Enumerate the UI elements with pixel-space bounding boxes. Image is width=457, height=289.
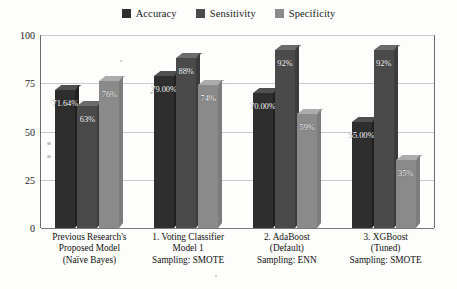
y-axis-tick-label: 25 bbox=[25, 174, 35, 185]
chart-legend: AccuracySensitivitySpecificity bbox=[0, 8, 457, 19]
category-label-line: (Tuned) bbox=[336, 243, 435, 254]
legend-entry: Accuracy bbox=[122, 8, 177, 19]
gridline: 0 bbox=[41, 228, 434, 229]
category-label-line: Proposed Model bbox=[40, 243, 139, 254]
bar: 71.64% bbox=[55, 90, 75, 228]
bar: 59% bbox=[297, 114, 317, 228]
legend-label: Sensitivity bbox=[210, 8, 256, 19]
legend-swatch-icon bbox=[122, 9, 131, 18]
bar-front-face bbox=[352, 122, 372, 228]
bar-front-face bbox=[253, 93, 273, 228]
scan-artifact bbox=[47, 142, 51, 145]
category-label-line: 3. XGBoost bbox=[336, 232, 435, 243]
bar: 35% bbox=[396, 160, 416, 228]
category-label: 1. Voting ClassifierModel 1Sampling: SMO… bbox=[139, 232, 238, 266]
scan-artifact bbox=[120, 60, 122, 62]
bar-front-face bbox=[55, 90, 75, 228]
bar-side-face bbox=[317, 109, 321, 228]
bar-front-face bbox=[275, 50, 295, 228]
bars-layer: 71.64%63%76%79.00%88%74%70.00%92%59%55.0… bbox=[40, 35, 435, 228]
bar-front-face bbox=[77, 106, 97, 228]
y-axis-tick-label: 50 bbox=[25, 126, 35, 137]
legend-label: Accuracy bbox=[136, 8, 177, 19]
category-label-line: Sampling: SMOTE bbox=[139, 255, 238, 266]
bar: 88% bbox=[176, 58, 196, 228]
category-label: Previous Research'sProposed Model(Naïve … bbox=[40, 232, 139, 266]
scan-artifact bbox=[150, 92, 153, 94]
bar-front-face bbox=[198, 85, 218, 228]
bar: 92% bbox=[374, 50, 394, 228]
bar-front-face bbox=[154, 76, 174, 228]
legend-swatch-icon bbox=[196, 9, 205, 18]
bar-side-face bbox=[416, 155, 420, 228]
category-label: 3. XGBoost(Tuned)Sampling: SMOTE bbox=[336, 232, 435, 266]
bar-front-face bbox=[297, 114, 317, 228]
category-label-line: 2. AdaBoost bbox=[238, 232, 337, 243]
bar-chart: AccuracySensitivitySpecificity 100755025… bbox=[0, 0, 457, 289]
scan-artifact bbox=[215, 275, 217, 277]
bar: 76% bbox=[99, 81, 119, 228]
bar-side-face bbox=[218, 80, 222, 228]
bar-side-face bbox=[119, 76, 123, 228]
bar-front-face bbox=[99, 81, 119, 228]
bar-front-face bbox=[396, 160, 416, 228]
category-label-line: 1. Voting Classifier bbox=[139, 232, 238, 243]
scan-artifact bbox=[300, 250, 303, 252]
category-label-line: Sampling: SMOTE bbox=[336, 255, 435, 266]
legend-swatch-icon bbox=[275, 9, 284, 18]
category-label-line: (Naïve Bayes) bbox=[40, 255, 139, 266]
legend-label: Specificity bbox=[289, 8, 336, 19]
bar-front-face bbox=[176, 58, 196, 228]
bar: 63% bbox=[77, 106, 97, 228]
category-label: 2. AdaBoost(Default)Sampling: ENN bbox=[238, 232, 337, 266]
category-axis-labels: Previous Research'sProposed Model(Naïve … bbox=[40, 232, 435, 282]
bar: 70.00% bbox=[253, 93, 273, 228]
bar: 74% bbox=[198, 85, 218, 228]
category-label-line: Previous Research's bbox=[40, 232, 139, 243]
legend-entry: Sensitivity bbox=[196, 8, 256, 19]
y-axis-tick-label: 0 bbox=[30, 223, 35, 234]
bar: 79.00% bbox=[154, 76, 174, 228]
category-label-line: Sampling: ENN bbox=[238, 255, 337, 266]
bar: 92% bbox=[275, 50, 295, 228]
bar-front-face bbox=[374, 50, 394, 228]
category-label-line: (Default) bbox=[238, 243, 337, 254]
legend-entry: Specificity bbox=[275, 8, 336, 19]
scan-artifact bbox=[47, 155, 51, 158]
bar: 55.00% bbox=[352, 122, 372, 228]
y-axis-tick-label: 100 bbox=[20, 30, 35, 41]
category-label-line: Model 1 bbox=[139, 243, 238, 254]
y-axis-tick-label: 75 bbox=[25, 78, 35, 89]
